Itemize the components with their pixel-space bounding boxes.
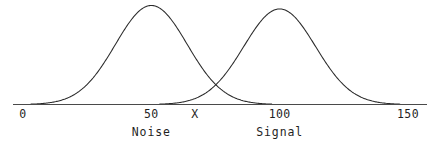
series-label-noise: Noise: [132, 125, 171, 139]
x-tick-label-0: 0: [19, 107, 26, 121]
x-axis-tick-labels: 0 50 100 150: [19, 107, 419, 121]
curves-group: [31, 6, 400, 105]
series-labels: Noise Signal: [132, 125, 303, 139]
series-label-signal: Signal: [256, 125, 303, 139]
x-tick-label-150: 150: [397, 107, 419, 121]
x-tick-label-50: 50: [144, 107, 159, 121]
criterion-label: X: [191, 107, 198, 121]
chart-figure: 0 50 100 150 X Noise Signal: [0, 0, 440, 155]
curve-signal: [159, 9, 400, 104]
distribution-chart: 0 50 100 150 X Noise Signal: [0, 0, 440, 155]
curve-noise: [31, 6, 272, 105]
x-tick-label-100: 100: [269, 107, 291, 121]
